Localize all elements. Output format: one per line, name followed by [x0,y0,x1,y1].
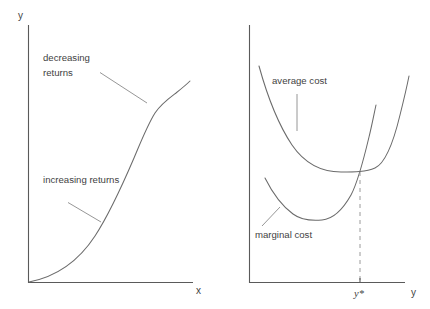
production-function-panel: y x decreasing returns increasing return… [18,10,201,296]
left-x-axis-label: x [196,285,201,296]
decreasing-returns-label-line2: returns [43,67,73,78]
y-star-tick-label: y* [353,288,365,299]
decreasing-returns-leader-line [100,73,147,104]
increasing-returns-leader-line [68,203,101,223]
economics-figure: y x decreasing returns increasing return… [0,0,430,309]
marginal-cost-curve [265,105,376,220]
marginal-cost-label: marginal cost [255,229,312,240]
right-x-axis-label: y [411,287,416,298]
increasing-returns-label: increasing returns [43,174,119,185]
left-y-axis-label: y [18,10,23,21]
average-cost-label: average cost [272,75,327,86]
figure-canvas: y x decreasing returns increasing return… [0,0,430,309]
decreasing-returns-label-line1: decreasing [43,52,90,63]
marginal-cost-leader-line [262,207,280,226]
cost-curves-panel: average cost marginal cost y* y [249,25,416,299]
